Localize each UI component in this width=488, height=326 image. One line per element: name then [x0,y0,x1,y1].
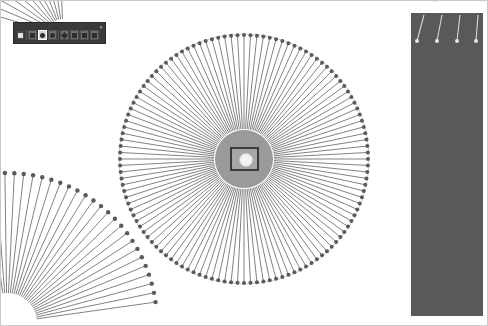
trajectory-line [60,1,63,19]
trajectory-line [144,177,220,232]
trajectory-endpoint [330,245,334,249]
trajectory-line [29,219,115,302]
toolbar-button-dot[interactable]: Point [48,30,57,40]
trajectory-line [266,76,336,139]
trajectory-endpoint [198,273,202,277]
trajectory-line [1,173,5,293]
toolbar-separator [26,30,27,40]
trajectory-endpoint [174,53,178,57]
trajectory-endpoint [126,201,130,205]
toolbar-button-move[interactable]: Move [38,30,47,40]
trajectory-endpoint [274,277,278,281]
selection-box[interactable] [230,147,259,171]
toolbar-button-more[interactable]: More [90,30,99,40]
toolbar-separator [58,30,59,40]
trajectory-endpoint [113,217,117,221]
trajectory-endpoint [310,261,314,265]
trajectory-line [200,187,234,275]
trajectory-endpoint [118,163,122,167]
trajectory-line [10,174,23,293]
trajectory-line [272,170,360,204]
trajectory-endpoint [330,69,334,73]
trajectory-endpoint [121,131,125,135]
right-gray-panel[interactable] [411,13,483,316]
trajectory-line [262,59,317,135]
trajectory-line [140,175,219,226]
trajectory-endpoint [310,53,314,57]
trajectory-line [246,189,251,283]
trajectory-endpoint [346,89,350,93]
trajectory-endpoint [40,175,44,179]
trajectory-endpoint [129,207,133,211]
trajectory-line [238,189,243,283]
trajectory-endpoint [152,291,156,295]
select-icon [30,33,35,38]
floating-toolbar[interactable]: × PointerSelectMovePointRotateScaleCropM… [13,22,106,44]
trajectory-endpoint [268,36,272,40]
trajectory-line [258,49,301,133]
trajectory-line [269,91,348,142]
trajectory-line [171,183,226,259]
trajectory-endpoint [248,33,252,37]
trajectory-line [126,121,215,150]
trajectory-line [255,187,289,275]
trajectory-endpoint [83,193,87,197]
trajectory-line [21,191,77,297]
toolbar-button-rotate[interactable]: Rotate [60,30,69,40]
trajectory-line [8,173,14,293]
trajectory-endpoint [146,235,150,239]
trajectory-line [259,52,306,133]
trajectory-line [274,162,367,172]
trajectory-line [218,38,238,130]
trajectory-endpoint [164,61,168,65]
trajectory-line [35,275,149,314]
trajectory-line [49,1,61,19]
trajectory-endpoint [119,224,123,228]
toolbar-button-crop[interactable]: Crop [80,30,89,40]
trajectory-line [269,175,348,226]
trajectory-endpoint [320,61,324,65]
trajectory-line [270,97,351,144]
trajectory-line [268,177,344,232]
trajectory-endpoint [124,119,128,123]
trajectory-endpoint [122,125,126,129]
trajectory-endpoint [255,280,259,284]
trajectory-line [14,177,42,294]
trajectory-endpoint [118,157,122,161]
trajectory-endpoint [169,57,173,61]
trajectory-line [148,81,221,140]
trajectory-line [5,173,7,293]
trajectory-line [212,39,236,130]
trajectory-line [36,284,152,315]
toolbar-button-pointer[interactable]: Pointer [16,30,25,40]
trajectory-endpoint [210,37,214,41]
trajectory-endpoint [216,278,220,282]
trajectory-line [218,188,238,280]
toolbar-button-select[interactable]: Select [28,30,37,40]
trajectory-endpoint [140,255,144,259]
trajectory-endpoint [120,138,124,142]
trajectory-line [274,164,367,179]
trajectory-endpoint [286,273,290,277]
trajectory-line [252,188,276,279]
trajectory-endpoint [154,245,158,249]
trajectory-line [120,161,214,166]
trajectory-endpoint [304,264,308,268]
close-icon[interactable]: × [99,25,103,29]
trajectory-line [34,257,142,310]
trajectory-line [274,161,368,166]
trajectory-endpoint [192,270,196,274]
trajectory-line [258,186,301,270]
trajectory-endpoint [364,176,368,180]
trajectory-endpoint [292,44,296,48]
trajectory-endpoint [3,171,7,175]
trajectory-endpoint [325,249,329,253]
trajectory-endpoint [325,65,329,69]
toolbar-button-scale[interactable]: Scale [70,30,79,40]
trajectory-endpoint [229,280,233,284]
trajectory-endpoint [135,247,139,251]
trajectory-line [33,249,137,308]
trajectory-line [267,178,340,237]
trajectory-endpoint [349,219,353,223]
trajectory-line [274,153,368,158]
